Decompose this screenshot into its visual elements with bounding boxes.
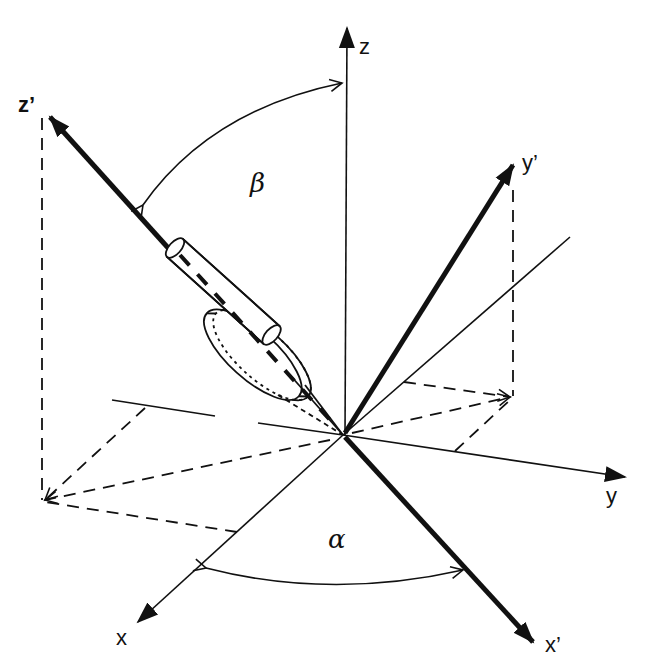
y-prime-axis bbox=[345, 165, 513, 433]
cone-line-2 bbox=[305, 385, 343, 435]
x-axis bbox=[138, 435, 343, 622]
z-prime-x-component bbox=[45, 408, 145, 500]
z-axis bbox=[345, 28, 347, 436]
cylinder-disc-object bbox=[163, 235, 343, 435]
alpha-arc bbox=[206, 568, 463, 585]
z-prime-y-component bbox=[45, 502, 237, 532]
angle-arcs bbox=[143, 83, 463, 585]
beta-arc bbox=[143, 83, 342, 205]
original-axes bbox=[112, 28, 625, 622]
z-prime-axis-outer bbox=[50, 117, 170, 250]
x-axis-label: x bbox=[116, 625, 127, 650]
x-axis-back bbox=[343, 237, 570, 435]
z-prime-axis-label: z’ bbox=[18, 92, 35, 117]
alpha-angle-label: α bbox=[328, 524, 346, 554]
y-prime-y-component bbox=[455, 400, 510, 451]
y-axis-back bbox=[112, 400, 215, 416]
y-prime-axis-label: y’ bbox=[522, 150, 538, 175]
x-prime-axis bbox=[345, 437, 533, 642]
y-axis-label: y bbox=[606, 483, 617, 508]
y-prime-x-component bbox=[404, 382, 510, 397]
z-axis-label: z bbox=[359, 34, 370, 59]
y-prime-floor-projection bbox=[352, 397, 510, 433]
y-axis-back-2 bbox=[258, 423, 343, 435]
z-prime-floor-projection bbox=[45, 440, 330, 500]
beta-angle-label: β bbox=[249, 168, 265, 198]
y-axis bbox=[343, 435, 625, 477]
labels: z z’ y’ y x x’ β α bbox=[18, 34, 617, 657]
z-prime-axis-hidden bbox=[180, 255, 330, 420]
euler-rotation-diagram: z z’ y’ y x x’ β α bbox=[0, 0, 645, 668]
x-prime-axis-label: x’ bbox=[545, 632, 561, 657]
